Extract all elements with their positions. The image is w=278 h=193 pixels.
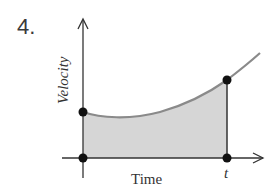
point-origin xyxy=(79,154,88,163)
t-tick-label: t xyxy=(224,165,229,181)
point-t xyxy=(223,154,232,163)
point-initial-velocity xyxy=(79,108,88,117)
x-axis-label: Time xyxy=(131,171,162,187)
velocity-time-graph: Velocity Time t xyxy=(0,0,278,193)
y-axis-label: Velocity xyxy=(55,56,71,104)
shaded-area xyxy=(83,80,227,158)
velocity-curve xyxy=(83,53,260,117)
point-velocity-at-t xyxy=(223,76,232,85)
